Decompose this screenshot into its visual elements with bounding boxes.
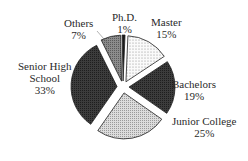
label-phd: Ph.D.1%	[112, 11, 137, 35]
slice-phd	[122, 35, 125, 81]
label-junior-college: Junior College25%	[172, 115, 236, 139]
label-master: Master15%	[151, 16, 182, 40]
label-senior-high-school: Senior HighSchool33%	[18, 60, 71, 96]
label-others: Others7%	[64, 17, 93, 41]
label-bachelors: Bachelors19%	[172, 78, 216, 102]
